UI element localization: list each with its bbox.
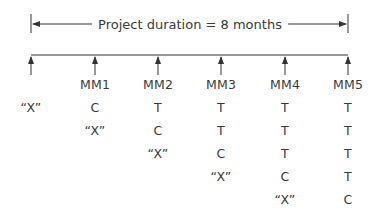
grid-cell: “X”	[211, 170, 232, 184]
grid-cell: “X”	[21, 101, 42, 115]
grid-cell: “X”	[275, 193, 296, 207]
grid-cell: T	[154, 101, 162, 115]
grid-cell: T	[217, 124, 225, 138]
grid-cell: C	[91, 101, 100, 115]
grid-cell: T	[281, 101, 289, 115]
milestone-arrows	[31, 57, 348, 75]
grid-cell: T	[344, 170, 352, 184]
timeline-diagram	[0, 0, 379, 215]
grid-cell: T	[281, 124, 289, 138]
grid-cell: C	[154, 124, 163, 138]
duration-title: Project duration = 8 months	[92, 17, 288, 32]
grid-cell: T	[344, 124, 352, 138]
milestone-header: MM3	[206, 78, 236, 92]
milestone-header: MM5	[333, 78, 363, 92]
milestone-header: MM1	[80, 78, 110, 92]
grid-cell: C	[217, 147, 226, 161]
grid-cell: T	[217, 101, 225, 115]
grid-cell: T	[281, 147, 289, 161]
grid-cell: “X”	[85, 124, 106, 138]
grid-cell: “X”	[148, 147, 169, 161]
grid-cell: C	[344, 193, 353, 207]
grid-cell: T	[344, 101, 352, 115]
milestone-header: MM2	[143, 78, 173, 92]
milestone-header: MM4	[270, 78, 300, 92]
grid-cell: C	[281, 170, 290, 184]
grid-cell: T	[344, 147, 352, 161]
